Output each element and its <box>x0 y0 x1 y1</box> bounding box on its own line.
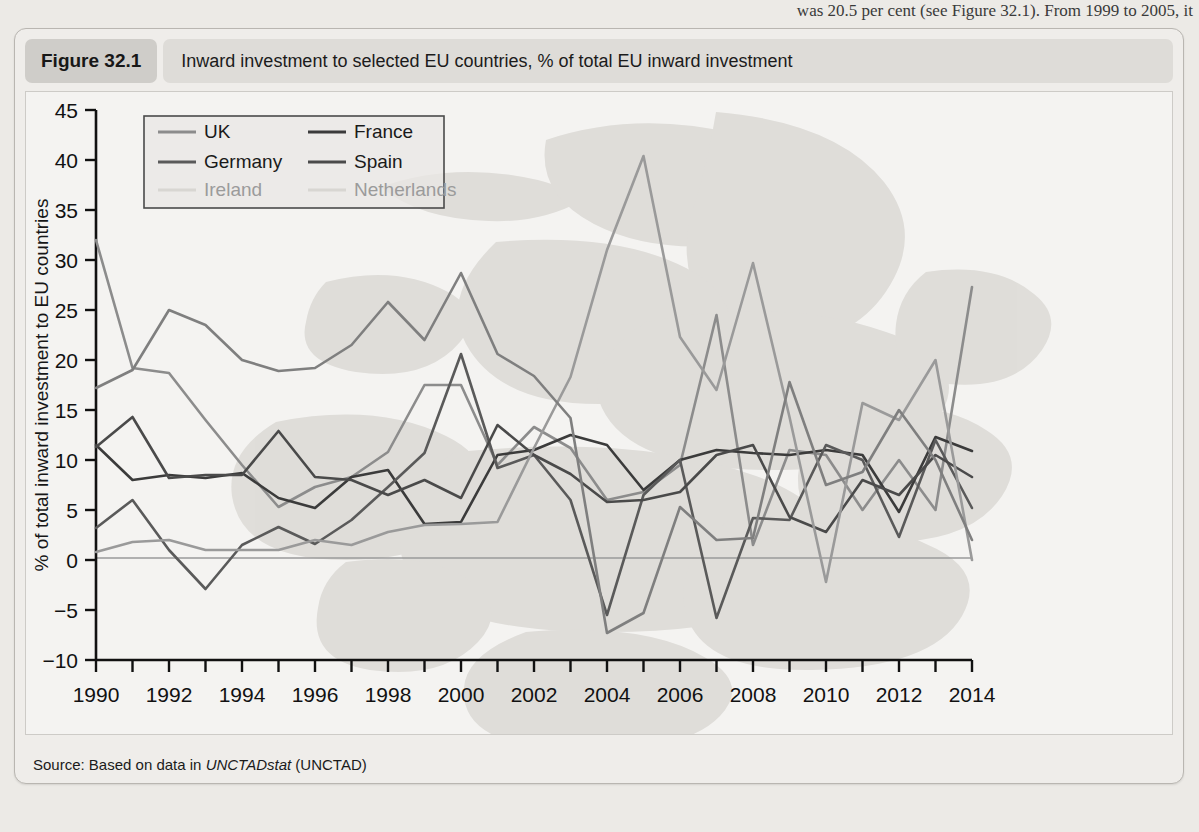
x-tick-label: 1992 <box>146 683 193 706</box>
figure-number-badge: Figure 32.1 <box>25 39 157 83</box>
x-tick-label: 2012 <box>876 683 923 706</box>
y-tick-label: 0 <box>66 549 78 572</box>
source-suffix: (UNCTAD) <box>291 756 367 773</box>
x-tick-label: 2000 <box>438 683 485 706</box>
source-prefix: Source: Based on data in <box>33 756 206 773</box>
chart-legend: UKFranceGermanySpainIrelandNetherlands <box>144 116 456 208</box>
x-tick-label: 2006 <box>657 683 704 706</box>
y-axis-title: % of total inward investment to EU count… <box>31 199 52 572</box>
x-tick-label: 1998 <box>365 683 412 706</box>
line-chart: −10−5051015202530354045 1990199219941996… <box>26 92 1172 734</box>
y-tick-label: −10 <box>42 649 78 672</box>
legend-label-ireland: Ireland <box>204 179 262 200</box>
legend-label-spain: Spain <box>354 151 403 172</box>
y-tick-label: 40 <box>55 149 78 172</box>
source-italic: UNCTADstat <box>206 756 292 773</box>
y-tick-label: 10 <box>55 449 78 472</box>
y-tick-label: 20 <box>55 349 78 372</box>
legend-label-uk: UK <box>204 121 231 142</box>
figure-header: Figure 32.1 Inward investment to selecte… <box>25 39 1173 83</box>
y-tick-label: 30 <box>55 249 78 272</box>
y-tick-label: −5 <box>54 599 78 622</box>
x-tick-label: 2008 <box>730 683 777 706</box>
y-tick-label: 15 <box>55 399 78 422</box>
figure-title: Inward investment to selected EU countri… <box>163 39 1173 83</box>
legend-label-france: France <box>354 121 413 142</box>
x-tick-label: 2004 <box>584 683 631 706</box>
x-tick-label: 1994 <box>219 683 266 706</box>
page-bleed-text: was 20.5 per cent (see Figure 32.1). Fro… <box>0 0 1199 26</box>
chart-plot-card: −10−5051015202530354045 1990199219941996… <box>25 91 1173 735</box>
x-tick-label: 1996 <box>292 683 339 706</box>
figure-source: Source: Based on data in UNCTADstat (UNC… <box>33 756 367 773</box>
legend-label-netherlands: Netherlands <box>354 179 456 200</box>
y-tick-label: 25 <box>55 299 78 322</box>
figure-box: Figure 32.1 Inward investment to selecte… <box>14 28 1184 784</box>
y-tick-label: 35 <box>55 199 78 222</box>
legend-label-germany: Germany <box>204 151 283 172</box>
x-tick-label: 2010 <box>803 683 850 706</box>
x-tick-label: 1990 <box>73 683 120 706</box>
x-tick-label: 2014 <box>949 683 996 706</box>
y-tick-label: 5 <box>66 499 78 522</box>
y-tick-label: 45 <box>55 99 78 122</box>
x-tick-label: 2002 <box>511 683 558 706</box>
